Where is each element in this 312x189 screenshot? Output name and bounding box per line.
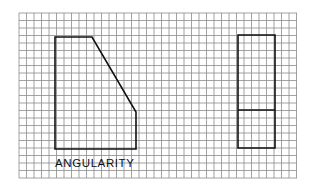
drawing-shapes [55,35,275,149]
grid-diagram [0,0,312,189]
side-view-rectangle [238,35,275,148]
diagram-caption: ANGULARITY [55,157,135,169]
